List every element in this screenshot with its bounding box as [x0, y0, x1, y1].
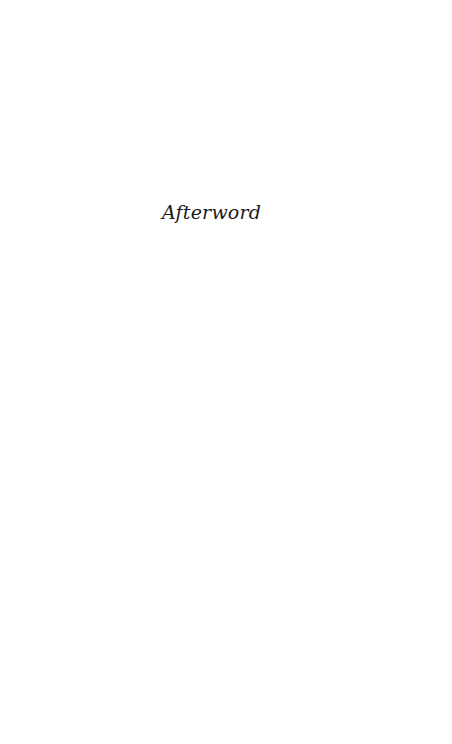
book-page: Afterword	[0, 0, 452, 744]
chapter-title: Afterword	[162, 198, 261, 226]
